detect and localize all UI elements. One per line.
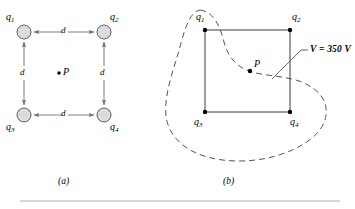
label-distance-d-left: d — [20, 68, 25, 77]
label-distance-d-bottom: d — [61, 109, 66, 118]
charge-circle-q4 — [97, 108, 111, 122]
panel-b-charge-dots — [203, 28, 292, 114]
label-charge-q3-b: q3 — [194, 117, 203, 127]
charge-dot-q1 — [203, 28, 207, 32]
charge-dot-q3 — [203, 110, 207, 114]
label-point-p-a: P — [63, 67, 69, 77]
charge-circle-q2 — [97, 25, 111, 39]
caption-panel-b: (b) — [223, 177, 234, 187]
equipotential-curve — [166, 10, 327, 161]
point-p-dot-b — [248, 69, 252, 73]
label-equipotential-value: V = 350 V — [310, 45, 351, 55]
label-charge-q2-b: q2 — [292, 12, 301, 22]
label-charge-q4-b: q4 — [290, 117, 299, 127]
label-charge-q1-a: q1 — [6, 12, 15, 22]
label-distance-d-top: d — [61, 26, 66, 35]
figure-canvas — [0, 0, 355, 209]
caption-panel-a: (a) — [58, 177, 69, 187]
label-charge-q1-b: q1 — [196, 12, 205, 22]
label-point-p-b: P — [254, 59, 260, 69]
label-charge-q2-a: q2 — [110, 12, 119, 22]
label-charge-q4-a: q4 — [110, 122, 119, 132]
label-charge-q3-a: q3 — [6, 122, 15, 132]
charge-circle-q1 — [17, 25, 31, 39]
label-distance-d-right: d — [100, 68, 105, 77]
panel-b-square — [205, 30, 290, 112]
charge-circle-q3 — [17, 108, 31, 122]
charge-dot-q4 — [288, 110, 292, 114]
charge-dot-q2 — [288, 28, 292, 32]
point-p-dot-a — [57, 71, 60, 74]
physics-figure: q1 q2 q3 q4 d d d d P q1 q2 q3 q4 P V = … — [0, 0, 355, 209]
